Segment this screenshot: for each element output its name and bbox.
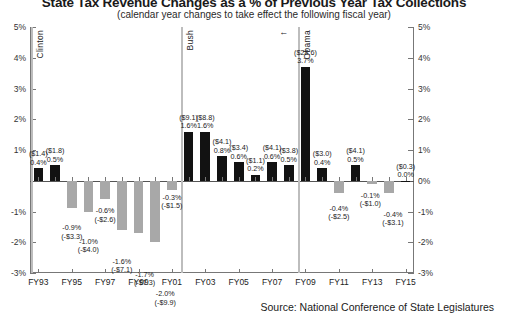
x-tick-label: FY05 (229, 277, 249, 287)
source-note: Source: National Conference of State Leg… (261, 301, 494, 313)
x-tick (272, 177, 273, 181)
bar-rect (184, 132, 194, 181)
bar-series: ($1.4)0.4%($1.8)0.5%-0.9%(-$3.3)-1.0%(-$… (30, 27, 414, 273)
y-tick-label: 3% (14, 84, 26, 94)
x-tick-label: FY15 (395, 277, 415, 287)
y-tick-label: -2% (11, 237, 26, 247)
chart-root: State Tax Revenue Changes as a % of Prev… (0, 0, 508, 314)
x-tick (122, 177, 123, 181)
x-tick-label: FY13 (362, 277, 382, 287)
y-tick-label: 4% (14, 53, 26, 63)
bar-rect (384, 181, 394, 193)
x-tick (88, 177, 89, 181)
x-axis-tick (105, 269, 106, 273)
x-tick (406, 177, 407, 181)
y-tick (408, 273, 414, 274)
y-tick-label: 2% (14, 114, 26, 124)
y-tick-label: 2% (418, 114, 430, 124)
bar-rect (150, 181, 160, 243)
x-tick (356, 177, 357, 181)
x-tick-label: FY07 (262, 277, 282, 287)
y-tick-label: -2% (418, 237, 433, 247)
y-tick-label: 4% (418, 53, 430, 63)
y-tick-label: 5% (418, 22, 430, 32)
x-tick-label: FY99 (128, 277, 148, 287)
x-tick (289, 177, 290, 181)
x-tick-label: FY09 (295, 277, 315, 287)
x-axis-tick (239, 269, 240, 273)
bar-rect (100, 181, 110, 199)
x-axis-tick (406, 269, 407, 273)
y-tick-label: -3% (418, 268, 433, 278)
x-axis-tick (205, 269, 206, 273)
x-tick-label: FY97 (95, 277, 115, 287)
y-tick-label: 3% (418, 84, 430, 94)
x-tick (38, 177, 39, 181)
x-axis-tick (38, 269, 39, 273)
x-tick-label: FY01 (162, 277, 182, 287)
bar-rect (401, 181, 411, 182)
bar-rect (117, 181, 127, 230)
x-tick-label: FY11 (329, 277, 349, 287)
bar (167, 27, 177, 273)
x-tick (255, 177, 256, 181)
y-tick-label: 1% (418, 145, 430, 155)
y-tick (30, 273, 36, 274)
bar-rect (167, 181, 177, 190)
x-tick (239, 177, 240, 181)
x-axis-tick (72, 269, 73, 273)
x-axis-tick (305, 269, 306, 273)
x-tick (189, 177, 190, 181)
chart-subtitle: (calendar year changes to take effect th… (0, 9, 508, 20)
x-tick (139, 177, 140, 181)
x-tick (222, 177, 223, 181)
bar (184, 27, 194, 273)
bar (117, 27, 127, 273)
x-axis-tick (139, 269, 140, 273)
bar (384, 27, 394, 273)
x-axis-tick (372, 269, 373, 273)
x-tick-label: FY95 (62, 277, 82, 287)
bar-rect (67, 181, 77, 209)
y-tick-label: 5% (14, 22, 26, 32)
x-tick (339, 177, 340, 181)
bar (401, 27, 411, 273)
x-axis-tick (339, 269, 340, 273)
x-tick (305, 177, 306, 181)
x-tick (322, 177, 323, 181)
bar-rect (334, 181, 344, 193)
x-tick (205, 177, 206, 181)
x-tick (372, 177, 373, 181)
bar-rect (367, 181, 377, 184)
bar (100, 27, 110, 273)
y-tick-label: -1% (11, 207, 26, 217)
x-tick (55, 177, 56, 181)
bar (134, 27, 144, 273)
x-axis-tick (172, 269, 173, 273)
x-tick (105, 177, 106, 181)
bar (367, 27, 377, 273)
x-tick (172, 177, 173, 181)
bar (150, 27, 160, 273)
x-tick (72, 177, 73, 181)
bar-data-label: -2.0%(-$9.9) (146, 290, 184, 307)
bar-rect (134, 181, 144, 233)
plot-area: 5%5%4%4%3%3%2%2%1%1%0%-1%-1%-2%-2%-3%-3%… (30, 27, 414, 273)
y-tick-label: -3% (11, 268, 26, 278)
x-tick-label: FY93 (28, 277, 48, 287)
x-tick-label: FY03 (195, 277, 215, 287)
x-tick (389, 177, 390, 181)
x-axis-tick (272, 269, 273, 273)
x-tick (155, 177, 156, 181)
y-tick-label: -1% (418, 207, 433, 217)
